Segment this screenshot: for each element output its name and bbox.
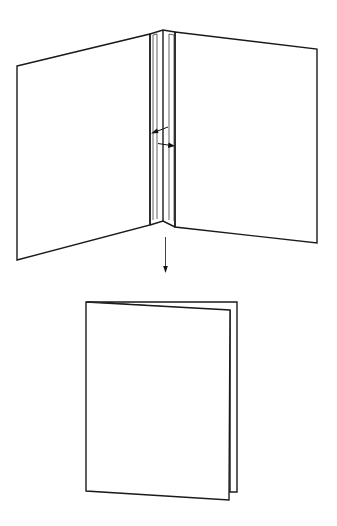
spine (150, 30, 175, 227)
front-cover (86, 302, 230, 500)
spine-bottom-edge (150, 221, 175, 227)
left-page (17, 34, 150, 260)
arrow-to-right-page (158, 143, 175, 149)
down-arrow-head-icon (163, 266, 168, 273)
booklet-fold-diagram (0, 0, 337, 526)
right-page (175, 32, 317, 243)
right-gutter-strip-outline (169, 34, 174, 221)
right-gutter-strip (169, 34, 174, 221)
open-spread (17, 30, 317, 260)
fold-transition-arrow (163, 237, 168, 273)
left-gutter-strip (153, 34, 157, 220)
closed-booklet (86, 302, 237, 500)
arrow-to-left-page (151, 127, 168, 134)
left-gutter-strip-outline (153, 34, 157, 220)
